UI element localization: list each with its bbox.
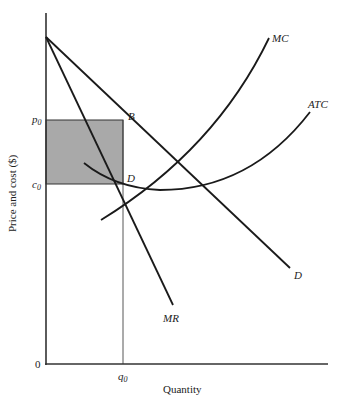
c0-label: c0 — [32, 178, 41, 192]
atc-label: ATC — [307, 98, 328, 110]
demand-label: D — [293, 269, 302, 281]
origin-label: 0 — [35, 358, 41, 370]
y-axis-title: Price and cost ($) — [6, 154, 19, 232]
point-d-label: D — [126, 172, 135, 184]
point-b-label: B — [128, 110, 135, 122]
mr-label: MR — [162, 312, 179, 324]
marginal-cost-curve — [101, 38, 269, 220]
p0-label: p0 — [31, 113, 42, 127]
mc-label: MC — [271, 32, 289, 44]
x-axis-title: Quantity — [163, 383, 202, 395]
q0-label: q0 — [118, 370, 128, 384]
monopoly-diagram: MC ATC D MR B D p0 c0 q0 0 Quantity Pric… — [0, 0, 341, 397]
